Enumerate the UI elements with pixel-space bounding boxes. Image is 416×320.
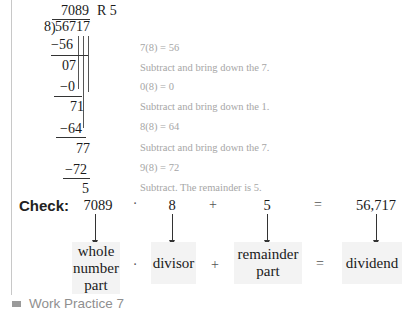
step-note: Subtract and bring down the 1.: [140, 101, 269, 112]
divisor-box: divisor: [151, 242, 196, 284]
step-subtract: −0: [60, 79, 75, 95]
step-note: 9(8) = 72: [140, 162, 179, 173]
arrow-line: [95, 214, 96, 243]
check-divisor: 8: [160, 197, 184, 214]
box-label: part: [256, 263, 279, 280]
arrow-line: [267, 214, 268, 243]
subtract-line: [54, 96, 82, 97]
step-result: 5: [82, 181, 89, 197]
step-note: 8(8) = 64: [140, 121, 179, 132]
step-note: Subtract and bring down the 7.: [140, 62, 269, 73]
subtract-line: [51, 55, 88, 56]
check-remainder: 5: [257, 197, 277, 214]
work-practice-label: Work Practice 7: [29, 296, 124, 311]
check-quotient: 7089: [76, 197, 120, 214]
equals-operator: =: [313, 256, 327, 272]
box-label: remainder: [238, 246, 299, 263]
whole-number-part-box: whole number part: [72, 242, 120, 294]
step-note: 0(8) = 0: [140, 81, 174, 92]
equals-operator: =: [311, 197, 325, 213]
section-marker-icon: [12, 301, 21, 307]
work-practice-heading: Work Practice 7: [12, 296, 124, 311]
subtract-line: [56, 137, 86, 138]
box-label: number: [73, 260, 119, 277]
check-dividend: 56,717: [346, 197, 406, 214]
subtract-line: [63, 178, 90, 179]
bring-down-guide: [78, 36, 79, 89]
dividend-box: dividend: [342, 242, 402, 284]
step-result: 07: [62, 58, 76, 74]
check-label: Check:: [19, 197, 69, 214]
arrow-line: [172, 214, 173, 243]
step-subtract: −72: [65, 162, 87, 178]
step-subtract: −56: [51, 37, 73, 53]
divisor: 8: [44, 19, 51, 35]
step-note: Subtract and bring down the 7.: [140, 142, 269, 153]
bring-down-guide: [88, 36, 89, 92]
remainder-part-box: remainder part: [234, 242, 302, 284]
step-subtract: −64: [60, 121, 82, 137]
box-label: dividend: [346, 255, 399, 272]
remainder-label: R 5: [97, 3, 117, 19]
step-note: Subtract. The remainder is 5.: [140, 182, 262, 193]
quotient: 7089: [61, 3, 89, 19]
plus-operator: +: [208, 257, 222, 273]
box-label: part: [84, 277, 107, 294]
step-note: 7(8) = 56: [140, 42, 179, 53]
plus-operator: +: [206, 197, 220, 213]
box-label: divisor: [153, 255, 195, 272]
dividend: 56717: [55, 19, 90, 35]
box-label: whole: [78, 243, 115, 260]
arrow-line: [376, 214, 377, 243]
step-result: 71: [70, 99, 84, 115]
margin-rule: [11, 0, 12, 295]
multiply-operator: ·: [128, 257, 142, 273]
multiply-operator: ·: [128, 196, 142, 212]
step-result: 77: [76, 141, 90, 157]
